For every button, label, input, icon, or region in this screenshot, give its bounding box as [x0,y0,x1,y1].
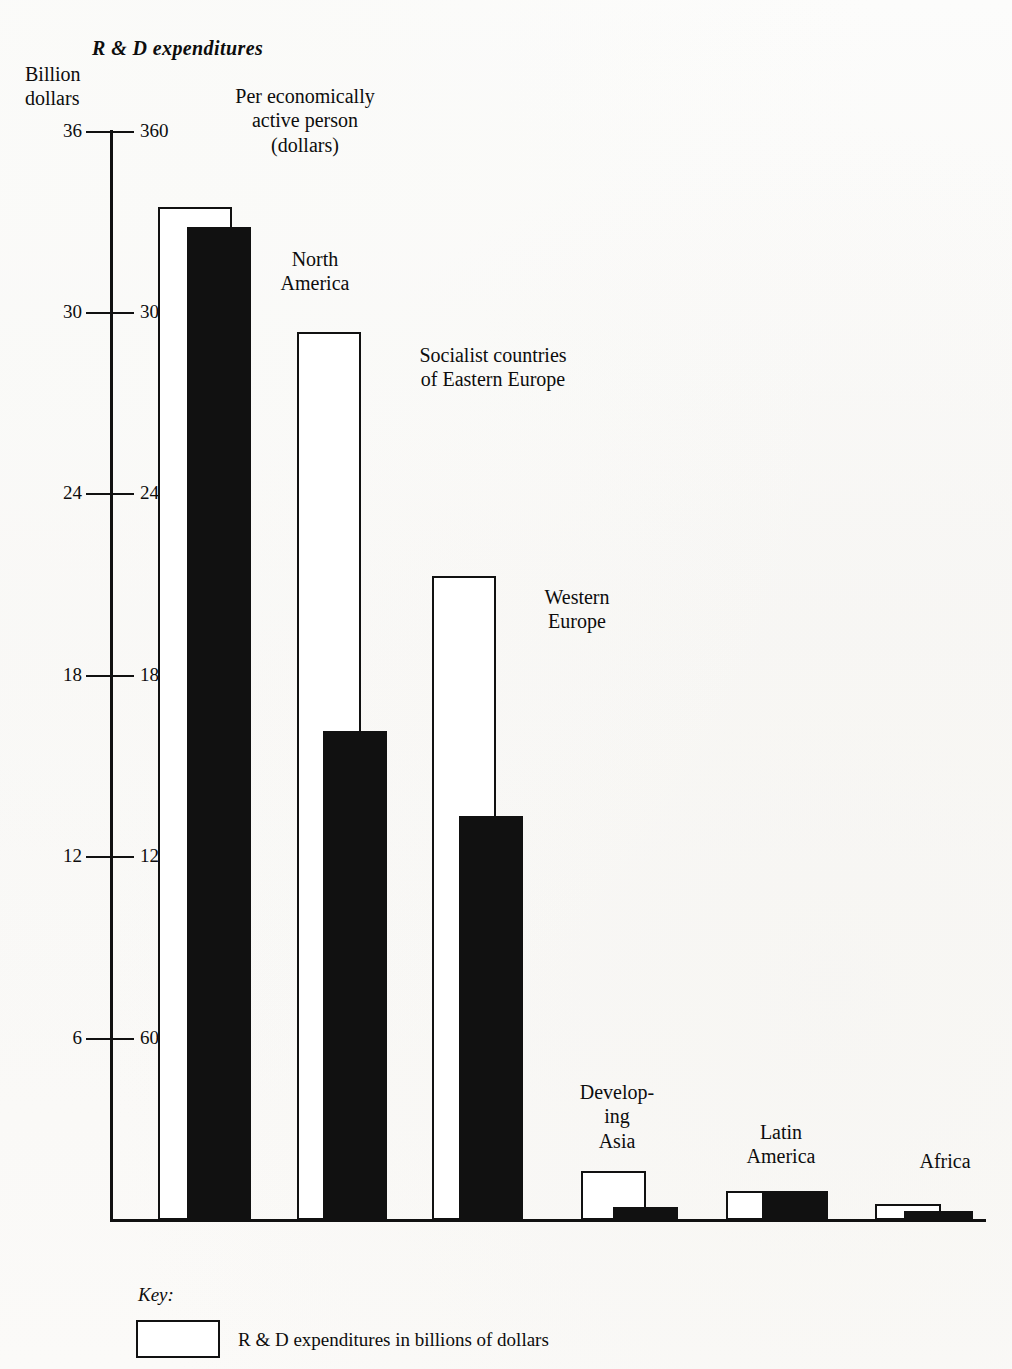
bar-solid-africa [904,1211,973,1220]
y-tick-label-6: 6 [20,1026,82,1049]
bar-solid-north-america [187,227,251,1220]
bar-solid-latin-america [762,1191,828,1220]
tick-mark-36-360 [86,131,134,133]
series-label-latin-america: Latin America [716,1120,846,1169]
chart-title: R & D expenditures [92,36,263,60]
bar-solid-western-europe [459,816,523,1220]
series-label-developing-asia: Develop- ing Asia [558,1080,676,1153]
key-entry-label: R & D expenditures in billions of dollar… [238,1328,549,1351]
tick-mark-12-120 [86,856,134,858]
key-title: Key: [138,1283,174,1306]
series-label-north-america: North America [240,247,390,296]
y-tick-label-36: 36 [20,119,82,142]
series-label-western-europe: Western Europe [497,585,657,634]
tick-mark-24-240 [86,493,134,495]
series-label-socialist: Socialist countries of Eastern Europe [355,343,631,392]
tick-mark-30-300 [86,312,134,314]
bar-solid-developing-asia [613,1207,678,1220]
y-tick-label-12: 12 [20,844,82,867]
bar-solid-socialist [323,731,387,1220]
right-axis-header: Per economically active person (dollars) [205,84,405,157]
y-tick-label-24: 24 [20,481,82,504]
key-swatch-open-bar [136,1320,220,1358]
bar-open-latin-america [726,1191,764,1220]
tick-mark-18-180 [86,675,134,677]
y-tick-label-30: 30 [20,300,82,323]
series-label-africa: Africa [890,1149,1000,1173]
y2-tick-label-360: 360 [140,119,169,142]
left-axis-header: Billion dollars [25,62,81,111]
chart-figure: R & D expenditures Billion dollars Per e… [0,0,1012,1369]
y2-tick-label-60: 60 [140,1026,159,1049]
y-tick-label-18: 18 [20,663,82,686]
tick-mark-6-60 [86,1038,134,1040]
